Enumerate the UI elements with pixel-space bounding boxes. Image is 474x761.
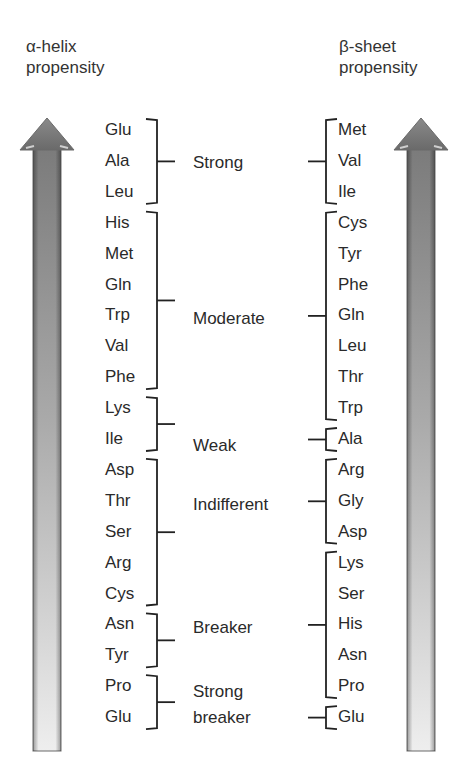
residue: Pro bbox=[105, 676, 131, 696]
residue: Trp bbox=[338, 398, 363, 418]
category-moderate: Moderate bbox=[193, 308, 265, 330]
residue: Pro bbox=[338, 676, 364, 696]
residue: Asn bbox=[338, 645, 367, 665]
residue: Glu bbox=[105, 707, 131, 727]
residue: Tyr bbox=[105, 645, 129, 665]
residue: Ala bbox=[105, 151, 130, 171]
category-indifferent: Indifferent bbox=[193, 494, 268, 516]
residue: Gln bbox=[338, 305, 364, 325]
residue: Ser bbox=[338, 584, 364, 604]
residue: Glu bbox=[105, 120, 131, 140]
residue: Thr bbox=[338, 367, 364, 387]
residue: Met bbox=[338, 120, 366, 140]
residue: Met bbox=[105, 244, 133, 264]
residue: Arg bbox=[338, 460, 364, 480]
residue: Tyr bbox=[338, 244, 362, 264]
beta-sheet-brackets bbox=[308, 119, 337, 729]
residue: Leu bbox=[338, 336, 366, 356]
residue: Val bbox=[105, 336, 128, 356]
residue: Cys bbox=[338, 213, 367, 233]
residue: Trp bbox=[105, 305, 130, 325]
residue: Lys bbox=[105, 398, 131, 418]
residue: Thr bbox=[105, 491, 131, 511]
residue: Asp bbox=[105, 460, 134, 480]
residue: Ala bbox=[338, 429, 363, 449]
residue: Leu bbox=[105, 182, 133, 202]
residue: Gln bbox=[105, 275, 131, 295]
residue: Lys bbox=[338, 553, 364, 573]
residue: His bbox=[105, 213, 130, 233]
residue: Phe bbox=[338, 275, 368, 295]
residue: Asp bbox=[338, 522, 367, 542]
category-weak: Weak bbox=[193, 435, 236, 457]
residue: Cys bbox=[105, 584, 134, 604]
residue: Ser bbox=[105, 522, 131, 542]
residue: His bbox=[338, 614, 363, 634]
group-brackets bbox=[0, 0, 474, 761]
residue: Val bbox=[338, 151, 361, 171]
alpha-helix-brackets bbox=[146, 119, 175, 729]
residue: Gly bbox=[338, 491, 364, 511]
residue: Ile bbox=[105, 429, 123, 449]
category-strong-breaker-line2: breaker bbox=[193, 707, 251, 729]
residue: Arg bbox=[105, 553, 131, 573]
category-strong-breaker-line1: Strong bbox=[193, 681, 243, 703]
residue: Phe bbox=[105, 367, 135, 387]
category-strong: Strong bbox=[193, 152, 243, 174]
residue: Ile bbox=[338, 182, 356, 202]
category-breaker: Breaker bbox=[193, 617, 253, 639]
residue: Glu bbox=[338, 707, 364, 727]
residue: Asn bbox=[105, 614, 134, 634]
